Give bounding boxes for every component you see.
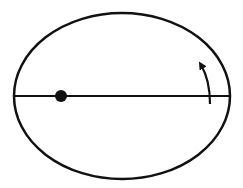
rotation-arrow-icon: [201, 65, 210, 104]
focus-point: [55, 90, 67, 102]
ellipse-diagram: [0, 0, 243, 188]
